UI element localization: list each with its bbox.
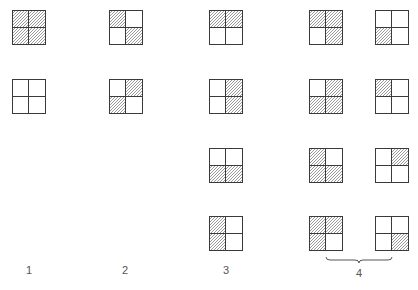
quadrant-bl-shaded: [210, 234, 226, 251]
quadrant-tr-shaded: [392, 149, 408, 166]
quadrant-br-shaded: [226, 166, 242, 183]
grid-square: [12, 79, 46, 114]
quadrant-tl-empty: [110, 80, 126, 97]
quadrant-bl-shaded: [376, 28, 392, 45]
grid-square: [375, 148, 409, 183]
quadrant-tr-empty: [392, 217, 408, 234]
grid-square: [375, 216, 409, 251]
quadrant-bl-empty: [310, 28, 326, 45]
grid-square: [209, 148, 243, 183]
quadrant-tr-empty: [126, 11, 142, 28]
quadrant-br-empty: [226, 28, 242, 45]
quadrant-tl-empty: [13, 80, 29, 97]
figure-canvas: 1234: [0, 0, 418, 290]
quadrant-bl-shaded: [210, 166, 226, 183]
quadrant-bl-empty: [376, 166, 392, 183]
quadrant-tl-shaded: [110, 11, 126, 28]
quadrant-br-empty: [392, 97, 408, 114]
grid-square: [309, 79, 343, 114]
quadrant-tr-shaded: [226, 80, 242, 97]
grid-square: [309, 148, 343, 183]
grid-square: [209, 10, 243, 45]
grid-square: [375, 79, 409, 114]
quadrant-bl-empty: [210, 28, 226, 45]
quadrant-br-shaded: [226, 97, 242, 114]
quadrant-tl-shaded: [210, 217, 226, 234]
grid-square: [12, 10, 46, 45]
quadrant-tl-shaded: [376, 80, 392, 97]
grid-square: [209, 79, 243, 114]
grid-square: [309, 10, 343, 45]
quadrant-bl-empty: [210, 97, 226, 114]
quadrant-br-shaded: [326, 97, 342, 114]
quadrant-tr-shaded: [326, 217, 342, 234]
grid-square: [375, 10, 409, 45]
quadrant-tr-empty: [392, 80, 408, 97]
column-label-2: 2: [122, 264, 128, 276]
quadrant-bl-shaded: [310, 166, 326, 183]
column-label-4: 4: [356, 267, 362, 279]
quadrant-tr-empty: [392, 11, 408, 28]
quadrant-tl-shaded: [310, 217, 326, 234]
quadrant-br-empty: [126, 97, 142, 114]
quadrant-tr-empty: [29, 80, 45, 97]
quadrant-tl-empty: [376, 149, 392, 166]
quadrant-tr-shaded: [226, 11, 242, 28]
grid-square: [209, 216, 243, 251]
quadrant-br-shaded: [326, 166, 342, 183]
column-label-1: 1: [26, 264, 32, 276]
grid-square: [309, 216, 343, 251]
quadrant-br-empty: [29, 97, 45, 114]
quadrant-tr-shaded: [126, 80, 142, 97]
quadrant-tr-shaded: [326, 11, 342, 28]
quadrant-bl-shaded: [310, 234, 326, 251]
quadrant-bl-empty: [13, 97, 29, 114]
quadrant-tl-empty: [310, 80, 326, 97]
quadrant-tl-empty: [376, 217, 392, 234]
quadrant-tl-shaded: [310, 149, 326, 166]
quadrant-tl-shaded: [210, 11, 226, 28]
quadrant-tl-empty: [376, 11, 392, 28]
quadrant-tr-empty: [326, 149, 342, 166]
quadrant-tr-shaded: [29, 11, 45, 28]
quadrant-tr-empty: [226, 217, 242, 234]
quadrant-bl-empty: [110, 28, 126, 45]
grid-square: [109, 79, 143, 114]
grid-square: [109, 10, 143, 45]
quadrant-br-shaded: [326, 28, 342, 45]
quadrant-tl-shaded: [13, 11, 29, 28]
quadrant-tl-empty: [210, 80, 226, 97]
quadrant-tr-empty: [226, 149, 242, 166]
quadrant-br-empty: [392, 166, 408, 183]
figure-caption: [95, 283, 325, 290]
quadrant-br-shaded: [126, 28, 142, 45]
quadrant-bl-empty: [376, 97, 392, 114]
quadrant-br-empty: [392, 28, 408, 45]
quadrant-br-empty: [326, 234, 342, 251]
quadrant-br-shaded: [29, 28, 45, 45]
quadrant-br-shaded: [392, 234, 408, 251]
quadrant-tl-empty: [210, 149, 226, 166]
quadrant-br-empty: [226, 234, 242, 251]
quadrant-bl-shaded: [110, 97, 126, 114]
quadrant-tr-shaded: [326, 80, 342, 97]
quadrant-tl-shaded: [310, 11, 326, 28]
column-label-3: 3: [223, 264, 229, 276]
quadrant-bl-shaded: [13, 28, 29, 45]
quadrant-bl-shaded: [310, 97, 326, 114]
quadrant-bl-empty: [376, 234, 392, 251]
